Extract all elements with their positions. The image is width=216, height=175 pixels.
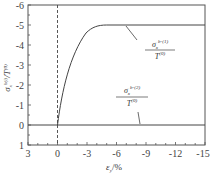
series-1-curve [58,25,206,125]
chart: -6 -5 -4 -3 -2 -1 0 1 3 0 -3 -6 -9 -12 -… [0,0,216,175]
leader-line-1 [126,26,137,40]
svg-text:-6: -6 [112,148,120,159]
x-axis-label: εy/% [106,162,122,173]
y-axis-label: σxb(i)/T(0) [2,64,13,92]
plot-frame [28,5,205,145]
svg-text:σxb-(2): σxb-(2) [124,85,141,96]
svg-text:-1: -1 [16,100,24,111]
svg-text:-3: -3 [83,148,91,159]
svg-text:-2: -2 [16,80,24,91]
svg-text:-5: -5 [16,20,24,31]
leader-line-2 [138,112,140,124]
svg-text:1: 1 [19,140,24,151]
svg-text:-3: -3 [16,60,24,71]
svg-text:-12: -12 [169,148,182,159]
svg-text:0: 0 [55,148,60,159]
svg-text:T(0): T(0) [127,98,138,108]
curve-2-label: σxb-(2) T(0) [116,85,148,108]
svg-text:-9: -9 [142,148,150,159]
svg-text:0: 0 [19,120,24,131]
svg-text:-4: -4 [16,40,24,51]
curve-1-label: σxb-(1) T(0) [145,39,175,61]
svg-text:3: 3 [26,148,31,159]
svg-text:T(0): T(0) [155,51,166,61]
x-tick-labels: 3 0 -3 -6 -9 -12 -15 [26,148,210,159]
svg-text:σxb-(1): σxb-(1) [152,39,169,50]
y-tick-labels: -6 -5 -4 -3 -2 -1 0 1 [16,0,24,151]
svg-text:-6: -6 [16,0,24,11]
svg-text:-15: -15 [196,148,209,159]
